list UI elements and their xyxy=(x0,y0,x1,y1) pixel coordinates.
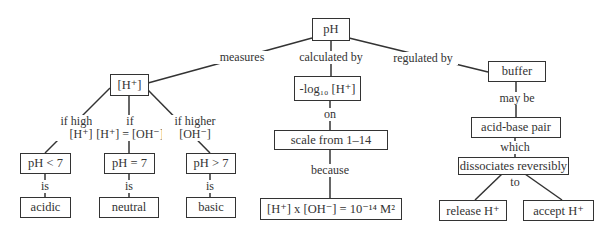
link-is-neutral: is xyxy=(120,180,138,193)
node-h-ion: [H⁺] xyxy=(110,74,149,96)
node-basic: basic xyxy=(186,197,236,218)
link-to: to xyxy=(507,176,523,189)
node-equation: [H⁺] x [OH⁻] = 10⁻¹⁴ M² xyxy=(260,198,402,220)
link-regulated-by: regulated by xyxy=(388,52,458,65)
link-because: because xyxy=(305,164,355,177)
node-accept-h: accept H⁺ xyxy=(523,200,594,221)
node-neutral: neutral xyxy=(99,197,159,218)
concept-map: measures calculated by regulated by if h… xyxy=(0,0,611,235)
link-which: which xyxy=(495,141,535,154)
node-acid-base-pair: acid-base pair xyxy=(471,117,561,138)
link-may-be: may be xyxy=(496,92,538,105)
node-ph-gt-7: pH > 7 xyxy=(186,153,236,174)
node-scale: scale from 1–14 xyxy=(274,130,388,150)
node-release-h: release H⁺ xyxy=(439,200,507,221)
node-buffer: buffer xyxy=(488,61,546,82)
link-measures: measures xyxy=(214,51,270,64)
link-if-equal: if [H⁺] = [OH⁻] xyxy=(92,115,168,141)
link-calculated-by: calculated by xyxy=(295,51,367,64)
node-acidic: acidic xyxy=(20,197,71,218)
link-on: on xyxy=(320,108,340,121)
link-is-acidic: is xyxy=(36,180,54,193)
link-if-higher-oh: if higher [OH⁻] xyxy=(162,115,228,141)
node-dissociates: dissociates reversibly xyxy=(458,157,569,175)
node-ph-lt-7: pH < 7 xyxy=(20,153,71,174)
node-ph-eq-7: pH = 7 xyxy=(104,153,155,174)
node-ph: pH xyxy=(312,18,350,41)
node-neglog: -log₁₀ [H⁺] xyxy=(294,76,361,101)
link-is-basic: is xyxy=(201,180,219,193)
